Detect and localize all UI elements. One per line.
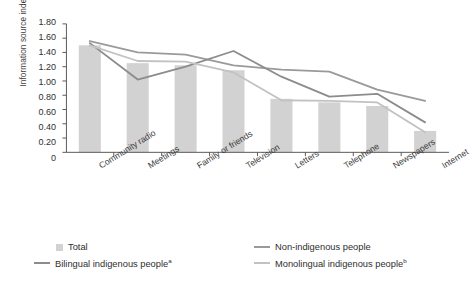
x-axis-category-labels: Community radioMeetingsFamily or friends…	[60, 158, 460, 230]
bar-total	[318, 102, 340, 152]
legend-swatch-total-icon	[56, 244, 63, 251]
y-axis-tick-label: 0.80	[22, 93, 56, 102]
legend-item-bilingual: Bilingual indigenous peoplea	[34, 257, 172, 269]
chart-legend: Total Non-indigenous people Bilingual in…	[22, 240, 452, 276]
plot-area	[60, 22, 453, 158]
y-axis-tick-label: 0.20	[22, 138, 56, 147]
legend-swatch-monolingual-icon	[254, 262, 270, 264]
legend-footnote-marker-a: a	[168, 257, 171, 264]
legend-item-non-indigenous: Non-indigenous people	[254, 242, 371, 252]
legend-item-monolingual: Monolingual indigenous peopleb	[254, 257, 407, 269]
legend-swatch-bilingual-icon	[34, 262, 50, 264]
legend-swatch-non-indigenous-icon	[254, 246, 270, 248]
legend-label-non-indigenous: Non-indigenous people	[275, 242, 371, 252]
chart-svg	[60, 22, 453, 158]
y-axis-tick-label: 1.40	[22, 48, 56, 57]
legend-footnote-marker-b: b	[403, 257, 406, 264]
bar-total	[175, 65, 197, 152]
y-axis-tick-label: 0.40	[22, 123, 56, 132]
legend-label-monolingual: Monolingual indigenous peopleb	[275, 257, 407, 269]
y-axis-tick-label: 1.60	[22, 33, 56, 42]
legend-label-bilingual: Bilingual indigenous peoplea	[55, 257, 172, 269]
legend-item-total: Total	[56, 242, 88, 252]
bar-total	[79, 45, 101, 152]
y-axis-tick-label: 1.20	[22, 63, 56, 72]
y-axis-tick-label: 0	[22, 154, 56, 163]
y-axis-tick-label: 1.80	[22, 18, 56, 27]
legend-label-total: Total	[68, 242, 88, 252]
y-axis-tick-label: 1.00	[22, 78, 56, 87]
axis-lines	[66, 24, 449, 152]
y-axis-tick-label: 0.60	[22, 108, 56, 117]
